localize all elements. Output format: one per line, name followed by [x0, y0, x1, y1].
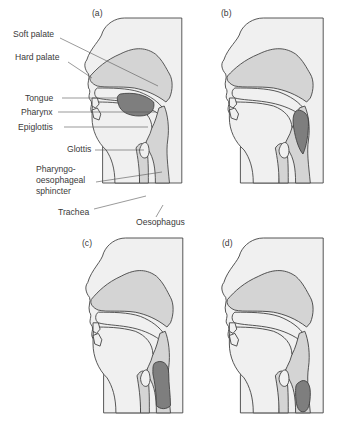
label-glottis: Glottis — [67, 144, 91, 154]
panel-c — [86, 238, 183, 413]
label-pos-line1: Pharyngo- — [36, 164, 76, 174]
panel-label-b: (b) — [221, 8, 232, 18]
label-pharynx: Pharynx — [21, 107, 53, 117]
bolus-d — [296, 381, 311, 412]
label-tongue: Tongue — [25, 93, 53, 103]
label-pos-line2: oesophageal — [36, 175, 85, 185]
panel-d — [222, 238, 323, 413]
panel-b — [222, 18, 323, 183]
label-soft-palate: Soft palate — [13, 29, 54, 39]
panel-label-c: (c) — [82, 238, 92, 248]
label-oesophagus: Oesophagus — [136, 217, 185, 227]
label-epiglottis: Epiglottis — [18, 122, 53, 132]
label-trachea: Trachea — [58, 207, 89, 217]
swallowing-diagram: (a) (b) (c) (d) Soft palate Hard palate … — [0, 0, 343, 437]
label-hard-palate: Hard palate — [15, 52, 60, 62]
panel-label-a: (a) — [92, 8, 103, 18]
panel-a — [85, 18, 182, 183]
panel-label-d: (d) — [222, 238, 233, 248]
label-pos-line3: sphincter — [36, 186, 71, 196]
